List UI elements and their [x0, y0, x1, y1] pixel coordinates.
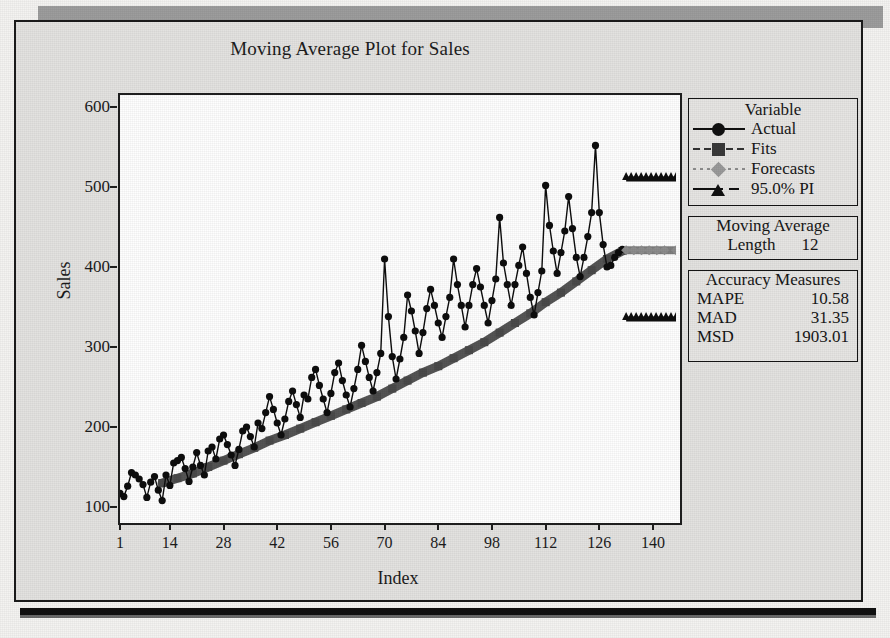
legend-key-square-icon — [693, 141, 745, 157]
x-tick-mark — [330, 523, 332, 530]
x-tick-label: 112 — [534, 534, 557, 552]
actual-marker — [519, 243, 526, 250]
actual-marker — [596, 209, 603, 216]
accuracy-row-value: 31.35 — [811, 308, 849, 327]
accuracy-row: MAD31.35 — [689, 308, 857, 327]
actual-marker — [304, 395, 311, 402]
fits-marker — [603, 255, 611, 263]
actual-marker — [162, 471, 169, 478]
moving-average-panel: Moving Average Length 12 — [688, 216, 858, 260]
actual-marker — [251, 443, 258, 450]
actual-marker — [143, 494, 150, 501]
actual-marker — [343, 391, 350, 398]
x-tick-label: 98 — [484, 534, 500, 552]
actual-marker — [496, 214, 503, 221]
plot-svg — [120, 95, 676, 519]
actual-marker — [201, 471, 208, 478]
y-tick-label: 300 — [56, 337, 110, 357]
fits-marker — [511, 319, 519, 327]
fits-marker — [480, 338, 488, 346]
actual-marker — [550, 247, 557, 254]
actual-marker — [258, 425, 265, 432]
actual-marker — [454, 281, 461, 288]
fits-marker — [419, 369, 427, 377]
actual-marker — [235, 446, 242, 453]
legend-marker-circle-icon — [712, 123, 725, 136]
actual-marker — [408, 307, 415, 314]
actual-marker — [224, 441, 231, 448]
moving-average-length-value: 12 — [802, 235, 819, 254]
actual-marker — [362, 358, 369, 365]
actual-marker — [231, 462, 238, 469]
fits-marker — [496, 329, 504, 337]
actual-marker — [577, 273, 584, 280]
moving-average-length-row: Length 12 — [689, 235, 857, 254]
legend-key-circle-icon — [693, 121, 745, 137]
x-tick-mark — [119, 523, 121, 530]
legend-item: 95.0% PI — [689, 179, 857, 199]
actual-marker — [438, 334, 445, 341]
y-tick-label: 100 — [56, 497, 110, 517]
actual-marker — [323, 409, 330, 416]
actual-marker — [208, 443, 215, 450]
legend-key-diamond-icon — [693, 161, 745, 177]
fits-marker — [174, 474, 182, 482]
actual-marker — [335, 359, 342, 366]
actual-marker — [369, 387, 376, 394]
actual-marker — [469, 281, 476, 288]
actual-marker — [366, 374, 373, 381]
actual-marker — [166, 482, 173, 489]
actual-marker — [508, 302, 515, 309]
actual-marker — [281, 415, 288, 422]
page-bottom-rule — [20, 608, 876, 615]
actual-marker — [404, 291, 411, 298]
moving-average-header: Moving Average — [689, 217, 857, 235]
x-tick-label: 84 — [430, 534, 446, 552]
actual-marker — [320, 395, 327, 402]
actual-marker — [308, 374, 315, 381]
actual-marker — [435, 319, 442, 326]
x-tick-label: 1 — [116, 534, 124, 552]
x-tick-mark — [652, 523, 654, 530]
y-tick-label: 400 — [56, 257, 110, 277]
actual-marker — [197, 462, 204, 469]
actual-marker — [465, 302, 472, 309]
x-tick-mark — [545, 523, 547, 530]
legend-item: Forecasts — [689, 159, 857, 179]
x-tick-mark — [169, 523, 171, 530]
actual-marker — [477, 283, 484, 290]
x-tick-mark — [276, 523, 278, 530]
actual-marker — [423, 305, 430, 312]
accuracy-row: MAPE10.58 — [689, 289, 857, 308]
actual-marker — [350, 385, 357, 392]
actual-marker — [500, 259, 507, 266]
actual-marker — [120, 493, 127, 500]
plot-area — [118, 93, 682, 525]
actual-marker — [373, 369, 380, 376]
actual-marker — [538, 267, 545, 274]
legend-item-label: Fits — [745, 139, 777, 159]
actual-marker — [527, 294, 534, 301]
actual-marker — [247, 433, 254, 440]
fits-line — [162, 251, 622, 483]
actual-marker — [358, 342, 365, 349]
actual-marker — [580, 254, 587, 261]
fits-marker — [465, 346, 473, 354]
accuracy-row-label: MSD — [697, 327, 794, 346]
actual-marker — [331, 369, 338, 376]
actual-marker — [473, 265, 480, 272]
y-tick-label: 200 — [56, 417, 110, 437]
actual-marker — [485, 319, 492, 326]
actual-marker — [554, 270, 561, 277]
actual-marker — [182, 465, 189, 472]
actual-marker — [534, 289, 541, 296]
y-tick-mark — [110, 506, 117, 508]
legend-marker-diamond-icon — [711, 162, 727, 178]
actual-marker — [193, 449, 200, 456]
fits-marker — [557, 289, 565, 297]
actual-marker — [592, 142, 599, 149]
actual-marker — [488, 297, 495, 304]
actual-marker — [212, 455, 219, 462]
actual-marker — [419, 329, 426, 336]
actual-marker — [155, 487, 162, 494]
